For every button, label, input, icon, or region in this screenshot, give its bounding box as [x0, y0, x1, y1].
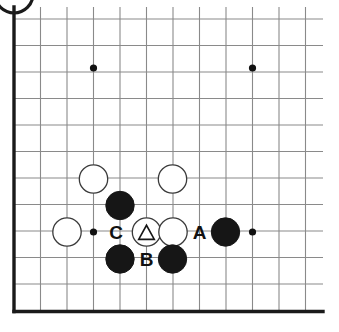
white-stone: [132, 218, 160, 246]
star-point: [249, 228, 256, 235]
white-stone: [159, 218, 187, 246]
star-point: [249, 64, 256, 71]
star-point: [90, 228, 97, 235]
point-label-c: C: [109, 222, 123, 243]
point-label-a: A: [193, 222, 207, 243]
star-point: [90, 64, 97, 71]
black-stone: [211, 218, 239, 246]
black-stone: [158, 245, 186, 273]
white-stone: [53, 218, 81, 246]
white-stone: [79, 165, 107, 193]
go-board-diagram: CAB: [0, 0, 339, 332]
black-stone: [106, 191, 134, 219]
black-stone: [106, 245, 134, 273]
white-stone: [158, 165, 186, 193]
go-board-canvas: CAB: [0, 0, 339, 332]
point-label-b: B: [140, 249, 154, 270]
